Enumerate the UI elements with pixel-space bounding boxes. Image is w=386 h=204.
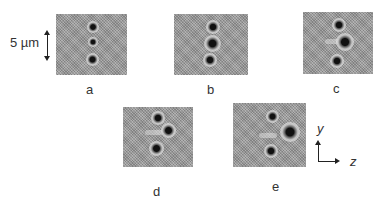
- bead: [88, 37, 98, 47]
- bead: [332, 18, 346, 32]
- panel-label-b: b: [207, 83, 214, 96]
- bead: [206, 20, 220, 34]
- panel-label-c: c: [333, 82, 340, 95]
- micrograph-panel-c: [303, 12, 373, 74]
- bead: [330, 54, 344, 68]
- panel-label-a: a: [86, 83, 93, 96]
- bead: [336, 33, 354, 51]
- bead: [149, 141, 164, 156]
- scale-bar-line: [47, 33, 48, 57]
- panel-label-e: e: [272, 180, 279, 193]
- bead: [280, 122, 300, 142]
- bead: [161, 123, 176, 138]
- bead: [264, 144, 278, 158]
- axis-arrow-right-icon: [335, 158, 340, 164]
- streak: [259, 133, 277, 138]
- bead: [203, 53, 217, 67]
- bead: [86, 53, 99, 66]
- micrograph-panel-e: [233, 103, 306, 167]
- bead: [87, 21, 99, 33]
- axis-label-z: z: [350, 155, 357, 168]
- micrograph-panel-b: [174, 14, 248, 75]
- bead: [151, 111, 165, 125]
- micrograph-panel-a: [56, 14, 127, 75]
- axis-line-y: [318, 144, 319, 162]
- axis-line-z: [318, 161, 336, 162]
- axis-label-y: y: [317, 122, 324, 135]
- scale-arrow-down-icon: [44, 56, 50, 61]
- panel-label-d: d: [153, 185, 160, 198]
- micrograph-panel-d: [123, 107, 193, 167]
- bead: [204, 35, 221, 52]
- bead: [266, 110, 279, 123]
- scale-bar-label: 5 µm: [10, 36, 39, 49]
